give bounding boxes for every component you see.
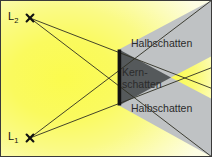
diagram-canvas [0,0,212,157]
occluder-bar [118,50,122,106]
umbra-label-line2: schatten [122,78,162,90]
penumbra-label-bottom: Halbschatten [131,103,192,115]
source-label-L1-sub: 1 [14,136,18,145]
shadow-diagram-figure: L2 L1 Halbschatten Kern- schatten Halbsc… [0,0,212,157]
penumbra-label-top: Halbschatten [131,38,192,50]
source-label-L2: L2 [8,11,18,26]
umbra-label: Kern- schatten [122,66,162,90]
umbra-label-line1: Kern- [122,66,162,78]
source-label-L1: L1 [8,131,18,146]
source-label-L2-sub: 2 [14,16,18,25]
